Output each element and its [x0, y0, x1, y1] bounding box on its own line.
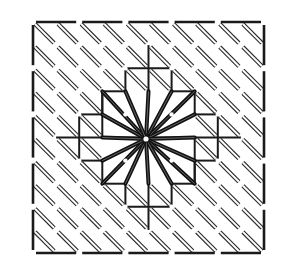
canvas-hole-dot	[169, 205, 173, 209]
canvas-hole-dot	[123, 205, 127, 209]
diagonal-stitch-highlight	[104, 70, 123, 89]
diagonal-stitch-highlight	[243, 163, 262, 182]
diagonal-stitch-highlight	[151, 24, 170, 43]
canvas-hole-dot	[216, 158, 220, 162]
canvas-hole-dot	[123, 251, 127, 255]
diagonal-stitch-highlight	[174, 24, 193, 43]
diagonal-stitch-highlight	[243, 70, 262, 89]
center-star-eye	[102, 91, 194, 183]
diagonal-stitch-highlight	[243, 47, 262, 66]
diagonal-stitch-highlight	[58, 186, 77, 205]
diagonal-stitch-highlight	[220, 24, 239, 43]
diagonal-stitch-highlight	[127, 186, 146, 205]
diagonal-stitch-highlight	[220, 163, 239, 182]
diagonal-stitch-highlight	[58, 70, 77, 89]
diagonal-stitch-highlight	[197, 116, 216, 135]
diagonal-stitch-highlight	[220, 232, 239, 251]
canvas-hole-dot	[169, 251, 173, 255]
diagonal-stitch-highlight	[35, 232, 54, 251]
diagonal-stitch-highlight	[35, 209, 54, 228]
canvas-hole-dot	[169, 158, 173, 162]
diagonal-stitch-highlight	[104, 24, 123, 43]
diagonal-stitch-highlight	[243, 140, 262, 159]
canvas-hole-dot	[123, 112, 127, 116]
diagonal-stitch-highlight	[58, 209, 77, 228]
diagonal-stitch-highlight	[220, 93, 239, 112]
diagonal-stitch-highlight	[220, 209, 239, 228]
diagonal-stitch-highlight	[81, 116, 100, 135]
diagonal-stitch-highlight	[220, 70, 239, 89]
diagonal-stitch-highlight	[220, 47, 239, 66]
diagonal-stitch-highlight	[174, 232, 193, 251]
diagonal-stitch-highlight	[197, 186, 216, 205]
canvas-hole-dot	[77, 20, 81, 24]
diagonal-stitch-highlight	[174, 186, 193, 205]
canvas-hole-dot	[31, 251, 35, 255]
diagonal-stitch-highlight	[58, 232, 77, 251]
canvas-hole-dot	[216, 66, 220, 70]
diagonal-stitch-highlight	[197, 24, 216, 43]
diagonal-stitch-highlight	[197, 47, 216, 66]
canvas-hole-dot	[123, 158, 127, 162]
canvas-hole-dot	[77, 66, 81, 70]
diagonal-stitch-highlight	[243, 186, 262, 205]
diagonal-stitch-highlight	[197, 232, 216, 251]
canvas-hole-dot	[169, 112, 173, 116]
canvas-hole-dot	[31, 112, 35, 116]
canvas-hole-dot	[262, 20, 266, 24]
canvas-hole-dot	[77, 251, 81, 255]
diagonal-stitch-highlight	[127, 209, 146, 228]
diagonal-stitch-highlight	[151, 186, 170, 205]
diagonal-stitch-highlight	[197, 70, 216, 89]
canvas-hole-dot	[123, 66, 127, 70]
diagonal-stitch-highlight	[81, 70, 100, 89]
diagonal-stitch-highlight	[243, 116, 262, 135]
diagonal-stitch-highlight	[58, 116, 77, 135]
diagonal-stitch-highlight	[81, 47, 100, 66]
diagonal-stitch-highlight	[58, 24, 77, 43]
canvas-hole-dot	[31, 158, 35, 162]
diagonal-stitch-highlight	[174, 209, 193, 228]
diagonal-stitch-highlight	[243, 24, 262, 43]
diagonal-stitch-highlight	[104, 186, 123, 205]
diagonal-stitch-highlight	[81, 232, 100, 251]
diagonal-stitch-highlight	[104, 47, 123, 66]
canvas-hole-dot	[169, 66, 173, 70]
diagonal-stitch-highlight	[58, 93, 77, 112]
canvas-hole-dot	[77, 158, 81, 162]
diagonal-stitch-highlight	[127, 232, 146, 251]
canvas-hole-dot	[262, 205, 266, 209]
canvas-hole-dot	[216, 251, 220, 255]
diagonal-stitch-highlight	[35, 186, 54, 205]
diagonal-stitch-highlight	[151, 47, 170, 66]
diagonal-stitch-highlight	[35, 93, 54, 112]
diagonal-stitch-highlight	[35, 47, 54, 66]
diagonal-stitch-highlight	[81, 209, 100, 228]
canvas-hole-dot	[31, 66, 35, 70]
canvas-hole-dot	[169, 20, 173, 24]
diagonal-stitch-highlight	[243, 232, 262, 251]
canvas-hole-dot	[31, 20, 35, 24]
diagonal-stitch-highlight	[81, 186, 100, 205]
canvas-hole-dot	[77, 112, 81, 116]
diagonal-stitch-highlight	[35, 116, 54, 135]
diagonal-stitch-highlight	[81, 140, 100, 159]
canvas-hole-dot	[262, 112, 266, 116]
diagonal-stitch-highlight	[127, 70, 146, 89]
canvas-hole-dot	[31, 205, 35, 209]
stitch-chart-canvas	[0, 0, 292, 278]
diagonal-stitch-highlight	[174, 70, 193, 89]
diagonal-stitch-highlight	[197, 140, 216, 159]
diagonal-stitch-highlight	[197, 163, 216, 182]
diagonal-stitch-highlight	[220, 186, 239, 205]
diagonal-stitch-highlight	[58, 47, 77, 66]
canvas-hole-dot	[262, 251, 266, 255]
diagonal-stitch-highlight	[81, 163, 100, 182]
diagonal-stitch-highlight	[104, 232, 123, 251]
diagonal-stitch-highlight	[58, 140, 77, 159]
diagonal-stitch-highlight	[197, 93, 216, 112]
diagonal-stitch-highlight	[220, 140, 239, 159]
canvas-hole-dot	[262, 66, 266, 70]
diagonal-stitch-highlight	[174, 47, 193, 66]
diagonal-stitch-highlight	[58, 163, 77, 182]
